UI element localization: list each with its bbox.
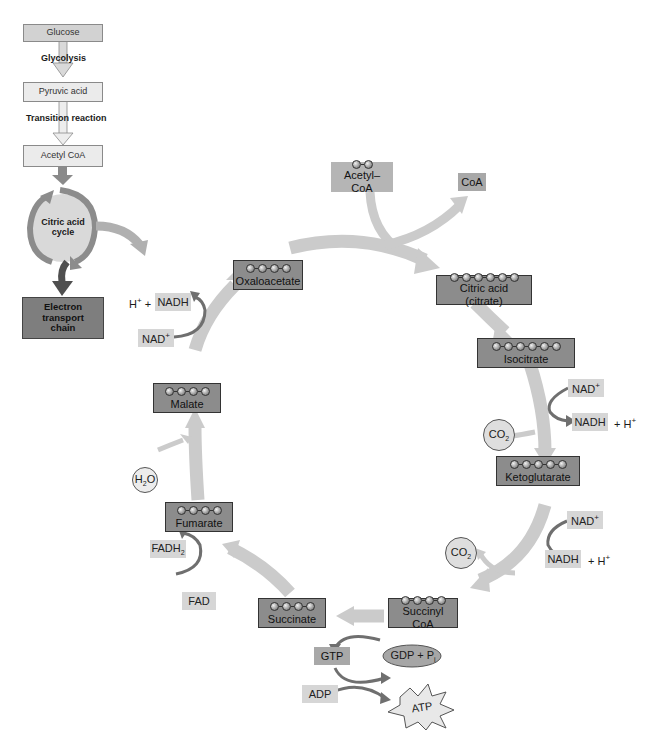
- malate-label: Malate: [170, 398, 203, 410]
- gtp-box: GTP: [314, 647, 350, 665]
- citrate-box: Citric acid (citrate): [436, 275, 532, 305]
- acetyl-coa-input-box: Acetyl–CoA: [331, 162, 393, 192]
- carbon-chain-4: [401, 596, 446, 605]
- co2-isocitrate: CO2: [483, 419, 515, 451]
- nadh-ketoglutarate: NADH: [545, 550, 581, 568]
- h-plus-malate: H+ +: [129, 296, 151, 310]
- electron-transport-chain-box: Electron transport chain: [22, 297, 104, 339]
- acetyl-coa-overview-label: Acetyl CoA: [41, 151, 86, 161]
- oxaloacetate-label: Oxaloacetate: [236, 275, 301, 287]
- fad-box: FAD: [182, 592, 216, 610]
- gdp-pi-label: GDP + Pi: [385, 648, 441, 664]
- malate-box: Malate: [153, 383, 221, 413]
- carbon-chain-4: [165, 386, 210, 398]
- carbon-chain-2: [352, 160, 373, 169]
- succinyl-coa-label: Succinyl CoA: [393, 605, 453, 629]
- carbon-chain-6: [492, 341, 561, 353]
- h-plus-ketoglutarate: + H+: [588, 553, 610, 567]
- carbon-chain-5: [510, 459, 567, 471]
- fumarate-box: Fumarate: [165, 502, 233, 532]
- succinate-label: Succinate: [268, 613, 316, 625]
- nad-plus-malate: NAD+: [138, 329, 174, 347]
- acetyl-coa-input-label: Acetyl–CoA: [335, 169, 389, 193]
- isocitrate-box: Isocitrate: [477, 338, 575, 368]
- nad-plus-ketoglutarate: NAD+: [567, 511, 603, 529]
- glucose-label: Glucose: [46, 28, 79, 38]
- fadh2-box: FADH2: [150, 540, 186, 558]
- citrate-label: Citric acid (citrate): [441, 282, 527, 306]
- oxaloacetate-box: Oxaloacetate: [233, 260, 303, 290]
- ketoglutarate-label: Ketoglutarate: [505, 471, 570, 483]
- nadh-isocitrate: NADH: [572, 413, 608, 431]
- isocitrate-label: Isocitrate: [504, 353, 549, 365]
- succinate-box: Succinate: [258, 598, 326, 628]
- coa-output-label: CoA: [461, 176, 482, 188]
- carbon-chain-4: [270, 601, 315, 613]
- carbon-chain-4: [177, 505, 222, 517]
- pyruvic-acid-box: Pyruvic acid: [23, 82, 103, 102]
- glycolysis-label: Glycolysis: [41, 53, 86, 63]
- pyruvic-acid-label: Pyruvic acid: [39, 87, 88, 97]
- adp-box: ADP: [302, 685, 338, 703]
- overview-arrows: [29, 41, 148, 296]
- glucose-box: Glucose: [23, 24, 103, 42]
- carbon-chain-4: [246, 263, 291, 275]
- nadh-malate: NADH: [155, 293, 191, 311]
- ketoglutarate-box: Ketoglutarate: [496, 456, 580, 486]
- citric-acid-cycle-label: Citric acid cycle: [38, 214, 88, 242]
- transition-reaction-label: Transition reaction: [26, 113, 107, 123]
- co2-ketoglutarate: CO2: [445, 537, 477, 569]
- acetyl-coa-box: Acetyl CoA: [23, 145, 103, 167]
- h2o-circle: H2O: [132, 467, 158, 493]
- carbon-chain-6: [450, 273, 519, 282]
- coa-output-box: CoA: [458, 173, 486, 191]
- nad-plus-isocitrate: NAD+: [568, 379, 604, 397]
- succinyl-coa-box: Succinyl CoA: [388, 598, 458, 628]
- h-plus-isocitrate: + H+: [614, 416, 636, 430]
- fumarate-label: Fumarate: [175, 517, 222, 529]
